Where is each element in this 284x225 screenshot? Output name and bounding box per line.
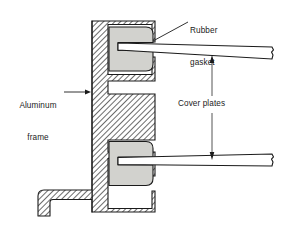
label-cover-plates: Cover plates: [178, 99, 225, 110]
leader-rubber-gasket: [153, 22, 188, 41]
figure-canvas: Rubber gasket Aluminum frame Cover plate…: [0, 0, 284, 225]
label-rubber-gasket-line2: gasket: [190, 58, 217, 69]
label-aluminum-frame-line1: Aluminum: [10, 101, 66, 112]
label-aluminum-frame: Aluminum frame: [10, 80, 66, 164]
label-aluminum-frame-line2: frame: [10, 133, 66, 144]
arrowhead-right-icon: [85, 90, 91, 95]
label-rubber-gasket: Rubber gasket: [190, 5, 217, 89]
leader-aluminum-frame: [64, 90, 91, 95]
label-rubber-gasket-line1: Rubber: [190, 26, 217, 37]
